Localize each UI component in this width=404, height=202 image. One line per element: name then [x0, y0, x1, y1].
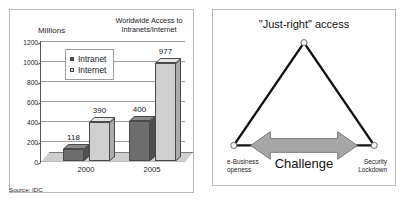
- x-tick-label-2000: 2000: [64, 165, 108, 174]
- legend-item-internet[interactable]: Internet: [70, 65, 106, 75]
- bar-2000-intranet[interactable]: 118: [63, 149, 84, 161]
- y-tick-label: 600: [27, 99, 38, 106]
- legend-swatch-icon: [70, 68, 74, 72]
- bar-front-face: [129, 121, 150, 161]
- gridline-1200: 1200: [41, 41, 185, 42]
- bar-chart-panel: Millions Worldwide Access to Intranets/I…: [9, 9, 194, 193]
- y-tick-label: 200: [27, 139, 38, 146]
- triangle-right-edge: [304, 43, 374, 146]
- bar-value-label: 400: [133, 105, 146, 114]
- bar-value-label: 977: [159, 47, 172, 56]
- bar-front-face: [89, 122, 110, 161]
- bar-value-label: 390: [93, 106, 106, 115]
- y-tick-label: 1200: [23, 39, 38, 46]
- triangle-left-edge: [234, 43, 304, 146]
- bar-side-face: [176, 58, 181, 161]
- bar-front-face: [155, 63, 176, 161]
- triangle-diagram-panel: "Just-right" access e-Business openess S…: [212, 9, 396, 186]
- y-tick-label: 400: [27, 119, 38, 126]
- y-tick-label: 800: [27, 79, 38, 86]
- plot-area: 1200 1000 800 600 400 200: [40, 41, 185, 162]
- source-note: Source: IDC: [9, 186, 43, 193]
- vertex-node-top: [301, 40, 307, 46]
- legend-label: Intranet: [78, 54, 106, 64]
- bar-front-face: [63, 149, 84, 161]
- chart-title: Worldwide Access to Intranets/Internet: [105, 17, 193, 34]
- bar-2005-internet[interactable]: 977: [155, 63, 176, 161]
- bar-2005-intranet[interactable]: 400: [129, 121, 150, 161]
- bar-side-face: [110, 117, 115, 161]
- vertex-node-left: [231, 142, 237, 148]
- label-challenge: Challenge: [213, 156, 395, 171]
- x-tick-label-2005: 2005: [130, 165, 174, 174]
- vertex-node-right: [371, 142, 377, 148]
- bar-2000-internet[interactable]: 390: [89, 122, 110, 161]
- legend-label: Internet: [78, 65, 106, 75]
- bar-value-label: 118: [67, 133, 80, 142]
- y-axis-title: Millions: [38, 26, 65, 35]
- y-tick-label: 0: [34, 159, 38, 166]
- screenshot-canvas: Millions Worldwide Access to Intranets/I…: [0, 0, 404, 202]
- chart-title-line-2: Intranets/Internet: [105, 26, 193, 35]
- legend-swatch-icon: [70, 57, 74, 61]
- y-tick-label: 1000: [23, 59, 38, 66]
- legend-item-intranet[interactable]: Intranet: [70, 54, 106, 64]
- chart-legend: Intranet Internet: [65, 49, 114, 80]
